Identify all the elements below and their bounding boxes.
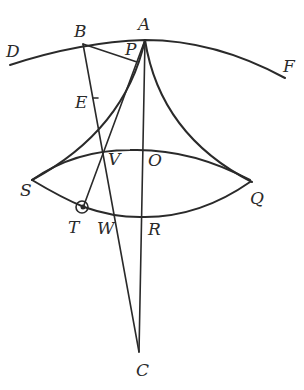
point-T-dot [81, 205, 86, 210]
label-D: D [5, 41, 20, 61]
label-V: V [108, 149, 122, 169]
diagram-canvas: D B A P F E V O S Q T W R C [0, 0, 304, 390]
segment-BC [83, 44, 139, 352]
label-C: C [136, 360, 149, 380]
segment-AC [139, 40, 145, 352]
label-E: E [74, 92, 88, 112]
label-F: F [282, 56, 296, 76]
label-A: A [136, 14, 150, 34]
label-O: O [148, 150, 162, 170]
arc-SVOQ [32, 150, 250, 180]
label-R: R [147, 219, 161, 239]
label-W: W [97, 218, 116, 238]
label-B: B [73, 21, 87, 41]
label-P: P [124, 39, 137, 59]
segment-AT [84, 40, 145, 205]
arc-DBAF [10, 40, 285, 78]
label-Q: Q [250, 188, 264, 208]
label-S: S [20, 180, 32, 200]
cusp-arc-AS [32, 40, 145, 180]
geometry-figure: D B A P F E V O S Q T W R C [0, 0, 304, 390]
label-T: T [68, 217, 81, 237]
